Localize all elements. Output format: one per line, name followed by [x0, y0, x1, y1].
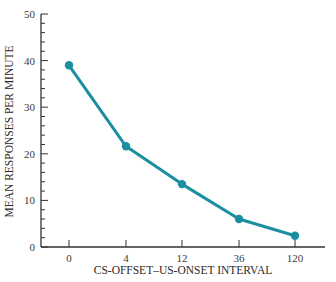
- data-point: [291, 232, 299, 240]
- x-tick-label: 36: [234, 252, 246, 264]
- x-tick-label: 4: [123, 252, 129, 264]
- axes: 01020304050041236120: [24, 8, 325, 264]
- y-tick-label: 30: [24, 101, 36, 113]
- line-chart: 01020304050041236120CS-OFFSET–US-ONSET I…: [0, 0, 336, 282]
- x-tick-label: 0: [66, 252, 72, 264]
- data-point: [122, 142, 130, 150]
- series-line: [69, 65, 295, 236]
- y-tick-label: 20: [24, 148, 36, 160]
- x-tick-label: 120: [287, 252, 304, 264]
- y-tick-label: 0: [30, 241, 36, 253]
- data-point: [178, 180, 186, 188]
- y-tick-label: 10: [24, 194, 36, 206]
- data-point: [65, 61, 73, 69]
- series: [65, 61, 299, 240]
- y-tick-label: 40: [24, 55, 36, 67]
- x-tick-label: 12: [177, 252, 188, 264]
- data-point: [235, 215, 243, 223]
- y-axis-title: MEAN RESPONSES PER MINUTE: [3, 45, 15, 217]
- x-axis-title: CS-OFFSET–US-ONSET INTERVAL: [94, 264, 273, 276]
- y-tick-label: 50: [24, 8, 36, 20]
